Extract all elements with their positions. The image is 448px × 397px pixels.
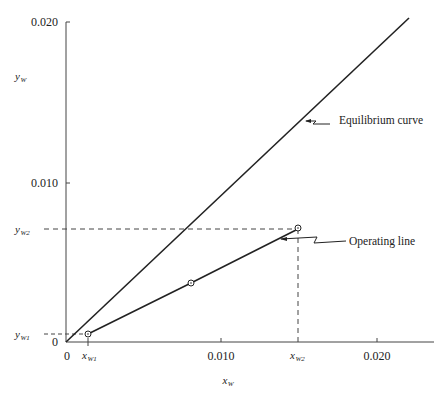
y-tick-label-010: 0.010 — [31, 176, 58, 190]
operating-line-label: Operating line — [349, 235, 415, 248]
equilibrium-arrowhead-icon — [305, 119, 311, 123]
y-axis-label: yW — [14, 70, 27, 84]
x-axis-label: xW — [221, 374, 234, 388]
y-tick-label-0: 0 — [52, 335, 58, 349]
x-w2-label: xW2 — [289, 349, 305, 363]
y-tick-label-020: 0.020 — [31, 15, 58, 29]
x-tick-label-020: 0.020 — [364, 349, 391, 363]
chart-canvas: 0.020 0.010 0 0 0.010 0.020 yW xW yW2 yW… — [0, 0, 448, 397]
y-w1-label: yW1 — [14, 328, 30, 342]
equilibrium-curve — [66, 18, 409, 342]
x-tick-label-0: 0 — [64, 349, 70, 363]
x-tick-label-010: 0.010 — [208, 349, 235, 363]
operating-leader-icon — [281, 237, 346, 243]
equilibrium-curve-label: Equilibrium curve — [339, 114, 423, 127]
y-w2-label: yW2 — [14, 223, 30, 237]
x-w1-label: xW1 — [81, 349, 97, 363]
